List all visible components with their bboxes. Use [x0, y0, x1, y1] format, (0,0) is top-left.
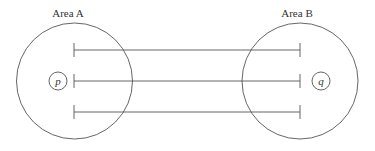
connection-line-bottom: [74, 105, 300, 119]
point-p-label: p: [54, 75, 61, 87]
diagram-canvas: Area A Area B p q: [0, 0, 375, 151]
point-q-label: q: [318, 75, 324, 87]
connection-line-middle: [74, 74, 300, 88]
connection-line-top: [74, 43, 300, 57]
area-a-label: Area A: [52, 7, 84, 19]
area-b-label: Area B: [281, 7, 312, 19]
